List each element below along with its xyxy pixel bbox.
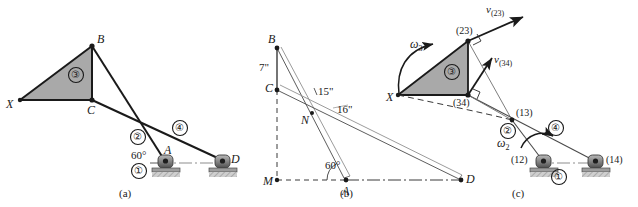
velocity-label-v23: v(23) xyxy=(486,4,504,18)
joint-C-a xyxy=(89,97,94,102)
point-label-D-a: D xyxy=(231,153,240,165)
link-4-label-c: ④ xyxy=(551,123,560,133)
point-label-M-b: M xyxy=(263,175,273,187)
point-label-X-a: X xyxy=(6,98,13,110)
link-4-label-a: ④ xyxy=(175,123,184,133)
point-label-X-c: X xyxy=(386,91,393,103)
dim-15-leader xyxy=(314,88,317,95)
point-label-34-c: (34) xyxy=(453,98,470,108)
joint-D-b xyxy=(459,178,464,183)
dimension-label-CD: 16" xyxy=(337,104,353,115)
point-label-C-b: C xyxy=(265,82,273,94)
omega-2-label: ω2 xyxy=(497,137,509,152)
point-label-14-c: (14) xyxy=(606,155,623,165)
link-CD-b-edge1 xyxy=(277,90,459,179)
velocity-label-v34: v(34) xyxy=(494,54,512,68)
joint-N-b xyxy=(310,111,314,115)
point-label-B-a: B xyxy=(97,33,104,45)
panel-caption-a: (a) xyxy=(119,188,131,199)
support-A xyxy=(152,155,180,177)
dimension-label-BA: 15" xyxy=(318,86,334,97)
ray-23-to-13 xyxy=(468,41,512,120)
figure-canvas xyxy=(0,0,638,207)
link-2-label-c: ② xyxy=(503,126,512,136)
omega-3-label-sub: 3 xyxy=(418,44,422,53)
point-label-D-b: D xyxy=(466,173,475,185)
velocity-label-v23-sub: (23) xyxy=(491,9,504,18)
link-2-label-a: ② xyxy=(133,132,142,142)
point-label-12-c: (12) xyxy=(511,155,528,165)
joint-23-c xyxy=(465,38,470,43)
link-3-label-c: ③ xyxy=(447,67,456,77)
omega-2-arc xyxy=(521,133,553,148)
joint-M-b xyxy=(275,178,279,182)
joint-B-b xyxy=(275,46,280,51)
joint-X-c xyxy=(396,93,400,97)
angle-label-60-a: 60° xyxy=(131,150,146,161)
link-BA-b-cap xyxy=(344,176,350,178)
joint-X-a xyxy=(18,98,22,102)
panel-a-graphics xyxy=(18,43,237,178)
velocity-label-v34-sub: (34) xyxy=(499,59,512,68)
panel-caption-c: (c) xyxy=(512,188,524,199)
joint-C-b xyxy=(275,88,280,93)
joint-B-a xyxy=(89,43,94,48)
right-angle-marker-34 xyxy=(473,89,480,99)
point-label-13-c: (13) xyxy=(516,108,533,118)
velocity-vector-23 xyxy=(468,17,523,41)
link-2-line xyxy=(92,46,165,161)
link-4-line xyxy=(92,100,222,160)
joint-13-c xyxy=(510,118,515,123)
mechanism-figure: X B C A D ③ ② ④ ① 60° (a) B C M N A D 7"… xyxy=(0,0,638,207)
link-3-label-a: ③ xyxy=(71,70,80,80)
link-CD-b-edge2 xyxy=(280,85,462,175)
velocity-vector-34 xyxy=(468,58,492,95)
link-4-line-c xyxy=(468,95,595,161)
point-label-B-b: B xyxy=(268,33,275,45)
omega-2-label-sub: 2 xyxy=(505,143,509,152)
dimension-label-BC: 7" xyxy=(259,62,269,73)
link-1-label-a: ① xyxy=(134,166,143,176)
link-1-label-c: ① xyxy=(554,172,563,182)
coupler-triangle-3 xyxy=(20,46,92,100)
point-label-C-a: C xyxy=(87,104,95,116)
panel-caption-b: (b) xyxy=(340,188,353,199)
point-label-23-c: (23) xyxy=(456,26,473,36)
point-label-A-a: A xyxy=(164,144,171,156)
point-label-N-b: N xyxy=(301,114,309,126)
coupler-triangle-3-c xyxy=(398,41,468,95)
omega-3-label: ω3 xyxy=(410,38,422,53)
joint-A-b xyxy=(344,178,349,183)
panel-c-graphics xyxy=(396,17,610,185)
angle-label-60-b: 60° xyxy=(325,160,340,171)
